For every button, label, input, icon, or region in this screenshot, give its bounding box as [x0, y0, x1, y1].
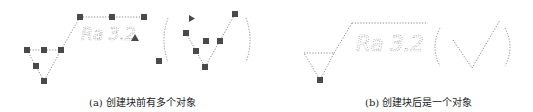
grip-handle[interactable]	[24, 47, 30, 53]
caption-b: (b) 创建块后是一个对象	[365, 94, 472, 109]
grip-handle[interactable]	[109, 14, 115, 20]
block-insertion-grip[interactable]	[317, 77, 323, 83]
panel-b-drawing: Ra 3.2	[304, 20, 510, 83]
grip-handle[interactable]	[58, 47, 64, 53]
roughness-text: Ra 3.2	[356, 32, 424, 56]
grip-handle[interactable]	[33, 63, 39, 69]
panel-a-drawing: Ra 3.2	[24, 11, 250, 84]
grip-handle[interactable]	[183, 30, 189, 36]
roughness-text: Ra 3.2	[81, 24, 136, 44]
grip-handle[interactable]	[156, 58, 162, 64]
grip-handle[interactable]	[217, 38, 223, 44]
roughness-slant-line	[61, 17, 80, 50]
grip-handle[interactable]	[202, 64, 208, 70]
right-paren-arc	[505, 28, 510, 66]
left-paren-arc	[164, 18, 168, 62]
check-mark-polyline	[186, 14, 235, 67]
right-paren-arc	[246, 18, 250, 62]
grip-handle[interactable]	[41, 78, 47, 84]
roughness-slant-line	[334, 23, 352, 53]
grip-handle[interactable]	[193, 48, 199, 54]
text-grip-triangle-icon[interactable]	[189, 15, 195, 22]
grip-handle[interactable]	[141, 14, 147, 20]
roughness-triangle	[304, 53, 334, 80]
grip-handle[interactable]	[232, 11, 238, 17]
grip-handle[interactable]	[41, 47, 47, 53]
grip-handle[interactable]	[203, 38, 209, 44]
caption-a: (a) 创建块前有多个对象	[89, 94, 196, 109]
roughness-triangle	[27, 50, 61, 81]
check-mark-polyline	[453, 20, 500, 68]
grip-handle[interactable]	[77, 14, 83, 20]
left-paren-arc	[435, 28, 440, 66]
